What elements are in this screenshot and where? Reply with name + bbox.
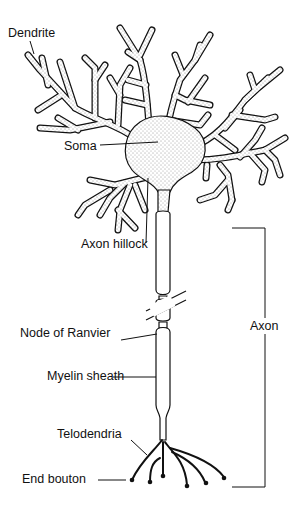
axon-bracket [232,228,265,487]
end-boutons [130,474,227,489]
label-telodendria: Telodendria [57,428,122,441]
label-axon-hillock: Axon hillock [81,238,148,251]
label-end-bouton: End bouton [22,473,86,486]
telodendria [132,440,224,485]
neuron-illustration [0,0,301,514]
label-dendrite: Dendrite [8,27,55,40]
label-axon: Axon [250,320,279,333]
axon-shaft [156,190,170,440]
label-myelin-sheath: Myelin sheath [47,370,124,383]
label-node-of-ranvier: Node of Ranvier [20,327,110,340]
label-soma: Soma [64,140,97,153]
